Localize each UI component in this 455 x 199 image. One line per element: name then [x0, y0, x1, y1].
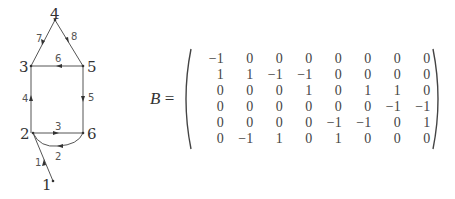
- matrix-row: 0−1101000: [194, 131, 430, 147]
- matrix-cell: 0: [283, 51, 313, 67]
- matrix-cell: 0: [401, 83, 431, 99]
- matrix-cell: −1: [401, 99, 431, 115]
- vertex-label-3: 3: [19, 58, 29, 76]
- edge-label-3: 3: [55, 121, 61, 132]
- matrix-cell: 0: [194, 131, 224, 147]
- edge-label-2: 2: [55, 151, 61, 162]
- matrix-cell: 0: [371, 67, 401, 83]
- matrix-cell: 1: [194, 67, 224, 83]
- arrow-edge-2-icon: [57, 144, 63, 148]
- matrix-row: 000000−1−1: [194, 99, 430, 115]
- matrix-cell: 1: [283, 83, 313, 99]
- matrix-cell: 0: [312, 83, 342, 99]
- matrix-cell: 0: [342, 99, 372, 115]
- matrix-cell: 0: [401, 67, 431, 83]
- matrix-cell: −1: [253, 67, 283, 83]
- edge-label-5: 5: [88, 92, 94, 103]
- matrix-cell: −1: [371, 99, 401, 115]
- matrix-cell: 0: [224, 51, 254, 67]
- matrix-cell: 1: [253, 131, 283, 147]
- edge-label-8: 8: [71, 31, 77, 42]
- matrix-row: 0000−1−101: [194, 115, 430, 131]
- vertex-label-1: 1: [42, 176, 52, 194]
- matrix-cell: 1: [342, 83, 372, 99]
- matrix-cell: 0: [194, 115, 224, 131]
- edge-label-4: 4: [22, 93, 28, 104]
- matrix-cell: 0: [371, 131, 401, 147]
- arrow-edge-6-icon: [56, 64, 62, 68]
- matrix-cell: 0: [401, 51, 431, 67]
- vertex-2-dot: [32, 132, 35, 135]
- matrix-cell: 0: [342, 51, 372, 67]
- matrix-cell: 0: [371, 115, 401, 131]
- matrix-cell: 1: [224, 67, 254, 83]
- right-paren-icon: [430, 48, 444, 150]
- arrow-edge-5-icon: [81, 96, 85, 102]
- left-paren-icon: [180, 48, 194, 150]
- matrix-cell: 0: [312, 99, 342, 115]
- vertex-label-5: 5: [87, 58, 97, 76]
- matrix-body: −1000000011−1−1000000010110000000−1−1000…: [194, 51, 430, 147]
- vertex-label-6: 6: [87, 125, 97, 143]
- matrix-cell: 1: [401, 115, 431, 131]
- matrix-cell: 0: [342, 131, 372, 147]
- matrix-cell: 0: [253, 83, 283, 99]
- matrix-row: −10000000: [194, 51, 430, 67]
- vertex-label-4: 4: [50, 5, 60, 23]
- matrix-cell: 0: [194, 83, 224, 99]
- matrix-cell: 0: [401, 131, 431, 147]
- equals-sign: =: [165, 89, 175, 108]
- matrix-cell: 0: [342, 67, 372, 83]
- matrix-cell: −1: [342, 115, 372, 131]
- matrix-name: B: [150, 89, 160, 108]
- matrix-row: 00010110: [194, 83, 430, 99]
- matrix-cell: −1: [312, 115, 342, 131]
- edge-label-1: 1: [35, 157, 41, 168]
- edge-2: [33, 133, 83, 146]
- matrix-cell: −1: [224, 131, 254, 147]
- arrow-edge-8-icon: [65, 37, 69, 43]
- directed-graph: 1 2 3 4 5 6 1 2 3 4 5 6 7 8: [0, 0, 120, 199]
- vertex-6-dot: [82, 132, 85, 135]
- matrix-cell: 0: [253, 99, 283, 115]
- vertex-1-dot: [52, 180, 55, 183]
- matrix-cell: 1: [312, 131, 342, 147]
- matrix-cell: −1: [194, 51, 224, 67]
- vertex-label-2: 2: [20, 125, 30, 143]
- arrow-edge-4-icon: [29, 95, 33, 101]
- matrix-cell: 0: [312, 51, 342, 67]
- matrix-row: 11−1−10000: [194, 67, 430, 83]
- matrix-cell: 0: [224, 115, 254, 131]
- matrix-cell: 0: [224, 83, 254, 99]
- matrix-cell: 1: [371, 83, 401, 99]
- matrix-cell: 0: [253, 115, 283, 131]
- incidence-matrix: B = −1000000011−1−1000000010110000000−1−…: [150, 28, 444, 170]
- matrix-cell: 0: [253, 51, 283, 67]
- edge-label-6: 6: [55, 53, 61, 64]
- matrix-cell: −1: [283, 67, 313, 83]
- matrix-cell: 0: [312, 67, 342, 83]
- vertex-3-dot: [30, 65, 33, 68]
- edge-label-7: 7: [36, 33, 42, 44]
- matrix-cell: 0: [224, 99, 254, 115]
- matrix-cell: 0: [194, 99, 224, 115]
- matrix-cell: 0: [283, 131, 313, 147]
- vertex-5-dot: [82, 65, 85, 68]
- matrix-lhs: B =: [150, 89, 174, 109]
- matrix-cell: 0: [371, 51, 401, 67]
- matrix-cell: 0: [283, 99, 313, 115]
- matrix-cell: 0: [283, 115, 313, 131]
